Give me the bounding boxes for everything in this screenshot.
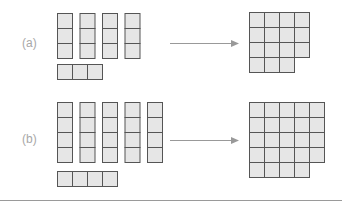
column-cell	[125, 118, 140, 133]
bar-cell	[58, 172, 73, 187]
column-cell	[80, 14, 95, 29]
square-cell	[265, 133, 280, 148]
column-cell	[103, 133, 118, 148]
square-cell	[265, 163, 280, 178]
diagram-canvas	[0, 0, 342, 202]
column-cell	[125, 44, 140, 59]
column-cell	[103, 29, 118, 44]
square-cell	[280, 13, 295, 28]
column-cell	[125, 133, 140, 148]
column-cell	[103, 148, 118, 163]
square-cell	[310, 118, 325, 133]
column-cell	[80, 133, 95, 148]
square-cell	[250, 103, 265, 118]
column-cell	[80, 29, 95, 44]
square-cell	[280, 163, 295, 178]
column-cell	[148, 148, 163, 163]
square-cell	[295, 133, 310, 148]
square-cell	[265, 58, 280, 73]
square-cell	[295, 118, 310, 133]
column-cell	[148, 103, 163, 118]
bar-cell	[88, 65, 103, 80]
square-cell	[295, 43, 310, 58]
column-cell	[80, 118, 95, 133]
bar-cell	[103, 172, 118, 187]
column-cell	[58, 14, 73, 29]
column-cell	[80, 148, 95, 163]
square-cell	[250, 58, 265, 73]
square-cell	[280, 58, 295, 73]
square-cell	[250, 133, 265, 148]
column-cell	[58, 133, 73, 148]
square-cell	[280, 28, 295, 43]
square-cell	[295, 13, 310, 28]
column-cell	[103, 118, 118, 133]
square-cell	[250, 43, 265, 58]
square-cell	[250, 28, 265, 43]
column-cell	[80, 103, 95, 118]
bar-cell	[88, 172, 103, 187]
bar-cell	[73, 172, 88, 187]
square-cell	[250, 118, 265, 133]
column-cell	[58, 29, 73, 44]
square-cell	[295, 148, 310, 163]
square-cell	[280, 43, 295, 58]
square-cell	[310, 103, 325, 118]
square-cell	[265, 13, 280, 28]
square-cell	[295, 163, 310, 178]
square-cell	[250, 163, 265, 178]
square-cell	[265, 118, 280, 133]
square-cell	[310, 133, 325, 148]
square-cell	[265, 103, 280, 118]
bar-cell	[73, 65, 88, 80]
column-cell	[103, 44, 118, 59]
square-cell	[280, 103, 295, 118]
square-cell	[310, 148, 325, 163]
column-cell	[148, 133, 163, 148]
column-cell	[58, 148, 73, 163]
column-cell	[58, 118, 73, 133]
arrow-head-icon	[231, 40, 239, 47]
square-cell	[250, 13, 265, 28]
column-cell	[80, 44, 95, 59]
arrow-head-icon	[231, 137, 239, 144]
bar-cell	[58, 65, 73, 80]
column-cell	[125, 14, 140, 29]
square-cell	[295, 28, 310, 43]
column-cell	[58, 103, 73, 118]
square-cell	[280, 118, 295, 133]
square-cell	[265, 43, 280, 58]
bottom-rule	[0, 200, 342, 201]
column-cell	[148, 118, 163, 133]
square-cell	[250, 148, 265, 163]
square-cell	[280, 148, 295, 163]
column-cell	[125, 29, 140, 44]
column-cell	[125, 103, 140, 118]
square-cell	[295, 103, 310, 118]
square-cell	[280, 133, 295, 148]
square-cell	[265, 28, 280, 43]
column-cell	[58, 44, 73, 59]
square-cell	[265, 148, 280, 163]
column-cell	[103, 103, 118, 118]
column-cell	[125, 148, 140, 163]
column-cell	[103, 14, 118, 29]
